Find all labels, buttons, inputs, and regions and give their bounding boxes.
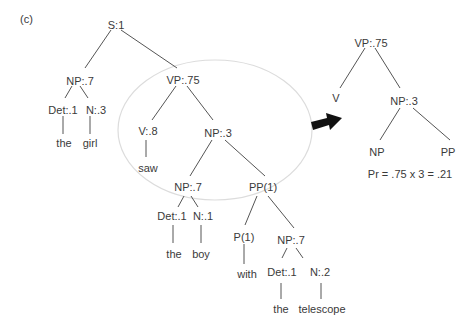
rule-node-pp-child: PP	[441, 146, 456, 158]
word-the-2: the	[166, 248, 181, 260]
node-np-object: NP:.3	[204, 127, 232, 139]
word-telescope: telescope	[298, 303, 345, 315]
word-saw: saw	[138, 162, 158, 174]
word-the-3: the	[273, 303, 288, 315]
node-n-2: N:.1	[193, 210, 213, 222]
probability-formula: Pr = .75 x 3 = .21	[368, 168, 452, 180]
node-np-subject: NP:.7	[66, 75, 94, 87]
node-v: V:.8	[138, 125, 157, 137]
node-det-3: Det:.1	[267, 266, 296, 278]
node-n-1: N:.3	[86, 104, 106, 116]
word-with: with	[237, 268, 257, 280]
word-girl: girl	[83, 137, 98, 149]
tree-edges	[0, 0, 468, 327]
rule-node-np-child: NP	[369, 146, 384, 158]
node-det-2: Det:.1	[157, 210, 186, 222]
arrow-icon	[311, 113, 342, 130]
rule-node-vp: VP:.75	[354, 37, 387, 49]
node-n-3: N:.2	[310, 266, 330, 278]
word-boy: boy	[192, 248, 210, 260]
node-s: S:1	[108, 19, 125, 31]
node-pp: PP(1)	[249, 181, 277, 193]
node-p: P(1)	[234, 231, 255, 243]
rule-node-np: NP:.3	[390, 95, 418, 107]
word-the-1: the	[56, 137, 71, 149]
node-det-1: Det:.1	[48, 104, 77, 116]
node-vp: VP:.75	[166, 74, 199, 86]
node-np-inner: NP:.7	[174, 181, 202, 193]
panel-label: (c)	[20, 13, 33, 25]
rule-node-v: V	[332, 92, 339, 104]
node-np-pp: NP:.7	[277, 234, 305, 246]
